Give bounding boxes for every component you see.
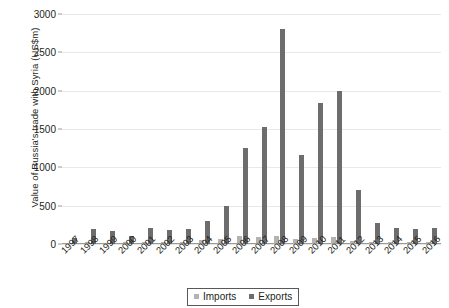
legend-label: Imports: [203, 290, 236, 303]
bar-group: [138, 14, 157, 244]
plot-area: 050010001500200025003000: [62, 14, 441, 244]
bar-group: [403, 14, 422, 244]
bar-group: [252, 14, 271, 244]
y-tick-label: 2000: [34, 85, 56, 96]
legend-label: Exports: [258, 290, 292, 303]
x-label-slot: 2006: [233, 246, 252, 286]
x-label-slot: 2012: [346, 246, 365, 286]
x-label-slot: 2010: [308, 246, 327, 286]
bar-group: [81, 14, 100, 244]
x-label-slot: 2004: [195, 246, 214, 286]
bar-chart: Value of Russia's trade with Syria (US$m…: [0, 0, 449, 308]
y-tick-label: 1000: [34, 162, 56, 173]
x-label-slot: 2011: [327, 246, 346, 286]
x-label-slot: 1998: [81, 246, 100, 286]
bar-group: [289, 14, 308, 244]
bar-exports-2010: [318, 103, 323, 244]
x-label-slot: 2013: [365, 246, 384, 286]
bar-group: [157, 14, 176, 244]
y-tick-label: 500: [39, 200, 56, 211]
chart-legend: ImportsExports: [187, 288, 299, 306]
x-label-slot: 2016: [422, 246, 441, 286]
bar-exports-2008: [280, 29, 285, 244]
bar-exports-2011: [337, 91, 342, 244]
bar-exports-2009: [299, 155, 304, 244]
x-label-slot: 2015: [403, 246, 422, 286]
bar-group: [233, 14, 252, 244]
legend-item-imports[interactable]: Imports: [194, 290, 236, 303]
bar-exports-2007: [262, 127, 267, 244]
legend-swatch-icon: [249, 294, 254, 299]
bar-group: [270, 14, 289, 244]
bar-exports-2006: [243, 148, 248, 244]
bar-group: [365, 14, 384, 244]
x-label-slot: 2001: [138, 246, 157, 286]
y-tick-label: 1500: [34, 124, 56, 135]
x-label-slot: 1999: [100, 246, 119, 286]
x-label-slot: 2002: [157, 246, 176, 286]
bar-group: [100, 14, 119, 244]
bar-group: [119, 14, 138, 244]
x-axis-labels: 1997199819992000200120022003200420052006…: [62, 246, 441, 286]
bar-group: [346, 14, 365, 244]
y-axis-title: Value of Russia's trade with Syria (US$m…: [29, 0, 40, 238]
y-tick-label: 3000: [34, 9, 56, 20]
x-label-slot: 2014: [384, 246, 403, 286]
bar-group: [195, 14, 214, 244]
bar-group: [384, 14, 403, 244]
y-tick-label: 0: [50, 239, 56, 250]
bar-group: [422, 14, 441, 244]
x-label-slot: 1997: [62, 246, 81, 286]
x-label-slot: 2007: [252, 246, 271, 286]
x-label-slot: 2005: [214, 246, 233, 286]
bar-group: [176, 14, 195, 244]
x-label-slot: 2008: [270, 246, 289, 286]
x-label-slot: 2009: [289, 246, 308, 286]
bar-group: [308, 14, 327, 244]
bar-group: [62, 14, 81, 244]
x-label-slot: 2000: [119, 246, 138, 286]
x-label-slot: 2003: [176, 246, 195, 286]
bar-group: [327, 14, 346, 244]
bar-group: [214, 14, 233, 244]
y-tick-label: 2500: [34, 47, 56, 58]
legend-swatch-icon: [194, 294, 199, 299]
bar-series-container: [62, 14, 441, 244]
legend-item-exports[interactable]: Exports: [249, 290, 292, 303]
